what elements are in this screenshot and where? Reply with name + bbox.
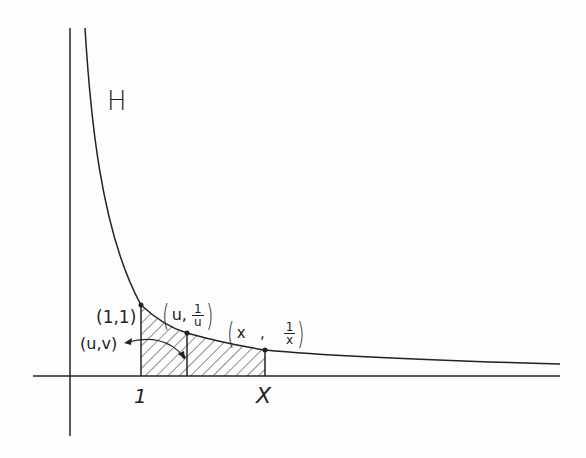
diagram-canvas [0,0,586,458]
point-label-u-1u: (u, 1u) [160,298,215,333]
tick-label-1: 1 [134,384,147,408]
point-label-u-v: (u,v) [80,334,117,353]
point-label-1-1: (1,1) [96,307,136,327]
point-1-1 [139,303,144,308]
hyperbola-curve [85,28,560,364]
fraction-1-over-u: 1u [192,303,204,328]
fraction-1-over-x: 1x [284,321,296,346]
tick-label-x: X [256,383,271,408]
hyperbola-diagram: H 1 X (1,1) (u,v) (u, 1u) (x , 1x) [0,0,586,458]
arrowhead-left [124,338,132,345]
point-label-x-1x: (x , 1x) [225,316,307,351]
region-label-h: H [107,86,127,116]
